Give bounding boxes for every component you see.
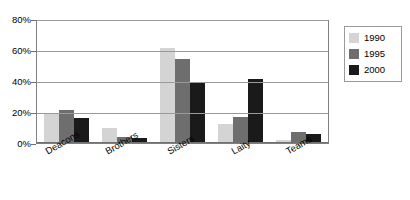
gridline: [37, 51, 328, 52]
y-tick-label: 80%: [12, 15, 31, 25]
legend-swatch-icon: [349, 33, 359, 43]
legend-label: 1995: [364, 49, 385, 59]
y-tick-label: 40%: [12, 77, 31, 87]
legend-label: 2000: [364, 65, 385, 75]
legend-item-2000[interactable]: 2000: [349, 62, 398, 78]
y-axis: 0%20%40%60%80%: [0, 0, 34, 200]
bar-laity-2000: [248, 79, 263, 143]
gridline: [37, 82, 328, 83]
legend-item-1990[interactable]: 1990: [349, 30, 398, 46]
legend: 199019952000: [344, 26, 402, 82]
legend-label: 1990: [364, 33, 385, 43]
y-tick-label: 0%: [17, 139, 31, 149]
gridline: [37, 113, 328, 114]
x-label-slot: Teams: [270, 145, 329, 200]
x-axis: DeaconsBrothersSistersLaityTeams: [36, 145, 329, 200]
y-tick-mark: [31, 51, 36, 52]
y-tick-mark: [31, 113, 36, 114]
legend-swatch-icon: [349, 49, 359, 59]
y-tick-label: 60%: [12, 46, 31, 56]
x-label-slot: Deacons: [36, 145, 95, 200]
gridline: [37, 20, 328, 21]
bar-sisters-1995: [175, 59, 190, 143]
legend-swatch-icon: [349, 65, 359, 75]
y-tick-mark: [31, 82, 36, 83]
y-tick-mark: [31, 144, 36, 145]
x-label-slot: Laity: [212, 145, 271, 200]
bar-laity-1990: [218, 124, 233, 143]
y-tick-mark: [31, 20, 36, 21]
bar-chart: 0%20%40%60%80% DeaconsBrothersSistersLai…: [0, 0, 410, 200]
x-label-slot: Brothers: [95, 145, 154, 200]
x-label-slot: Sisters: [153, 145, 212, 200]
bar-sisters-1990: [160, 48, 175, 143]
legend-item-1995[interactable]: 1995: [349, 46, 398, 62]
plot-area: [36, 20, 329, 144]
y-tick-label: 20%: [12, 108, 31, 118]
